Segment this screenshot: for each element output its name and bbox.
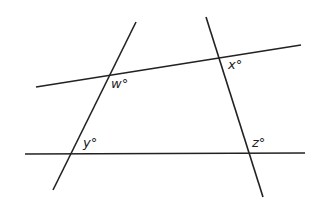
lower-line <box>25 153 305 154</box>
upper-line <box>36 45 301 87</box>
diagram-svg: w° x° y° z° <box>0 0 323 207</box>
angle-label-w: w° <box>111 76 128 91</box>
left-transversal <box>53 22 136 190</box>
angle-diagram: w° x° y° z° <box>0 0 323 207</box>
angle-label-z: z° <box>251 135 265 150</box>
right-transversal <box>206 17 263 197</box>
angle-label-x: x° <box>227 57 242 72</box>
angle-label-y: y° <box>82 135 97 150</box>
